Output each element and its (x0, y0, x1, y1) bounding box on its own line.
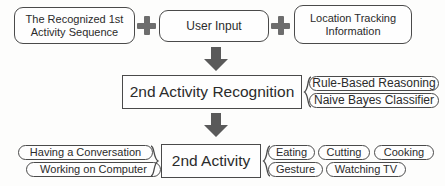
input-line-1: The Recognized 1st (26, 13, 124, 26)
example-pill-cutting[interactable]: Cutting (318, 145, 370, 160)
curly-brace-icon (150, 145, 160, 177)
example-label: Eating (276, 146, 307, 159)
plus-operator-2 (271, 16, 290, 35)
method-pill-naive-bayes-classifier[interactable]: Naive Bayes Classifier (309, 93, 439, 108)
example-label: Gesture (276, 163, 315, 176)
example-pill-having-a-conversation[interactable]: Having a Conversation (18, 145, 153, 160)
example-label: Watching TV (335, 163, 397, 176)
example-label: Cutting (327, 146, 362, 159)
diagram-canvas: The Recognized 1st Activity Sequence Use… (0, 0, 445, 186)
example-pill-working-on-computer[interactable]: Working on Computer (26, 162, 161, 177)
input-node-user-input[interactable]: User Input (159, 10, 269, 42)
plus-operator-1 (137, 16, 156, 35)
input-node-recognized-first-activity[interactable]: The Recognized 1st Activity Sequence (14, 7, 135, 44)
example-label: Cooking (384, 146, 424, 159)
method-pill-rule-based-reasoning[interactable]: Rule-Based Reasoning (309, 76, 439, 91)
output-label: 2nd Activity (172, 152, 250, 170)
output-box-second-activity[interactable]: 2nd Activity (161, 144, 261, 178)
down-arrow-icon (203, 47, 229, 72)
process-label: 2nd Activity Recognition (130, 83, 295, 101)
example-label: Having a Conversation (30, 146, 141, 159)
input-node-location-tracking[interactable]: Location Tracking Information (294, 5, 412, 44)
method-label: Rule-Based Reasoning (312, 76, 435, 90)
example-pill-eating[interactable]: Eating (268, 145, 315, 160)
input-line-1: Location Tracking (310, 12, 396, 25)
input-line-2: Activity Sequence (31, 26, 118, 39)
brace-left-examples (150, 145, 160, 177)
example-pill-gesture[interactable]: Gesture (268, 162, 323, 177)
arrow-recognition-to-activity (203, 113, 229, 138)
input-line-2: Information (325, 25, 380, 38)
process-box-second-activity-recognition[interactable]: 2nd Activity Recognition (122, 75, 302, 109)
method-label: Naive Bayes Classifier (314, 93, 434, 107)
example-pill-cooking[interactable]: Cooking (374, 145, 434, 160)
example-label: Working on Computer (40, 163, 147, 176)
example-pill-watching-tv[interactable]: Watching TV (326, 162, 406, 177)
down-arrow-icon (203, 113, 229, 138)
arrow-inputs-to-recognition (203, 47, 229, 72)
input-line-1: User Input (186, 19, 241, 33)
